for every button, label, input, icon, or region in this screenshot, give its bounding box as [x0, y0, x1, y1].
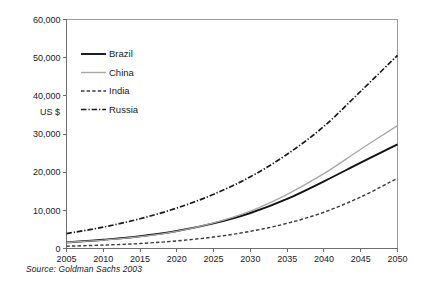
x-tick-label: 2045: [351, 254, 371, 264]
x-tick-label: 2050: [387, 254, 407, 264]
series-lines: [67, 55, 398, 246]
y-tick-label: 60,000: [33, 15, 61, 25]
x-tick-label: 2015: [130, 254, 150, 264]
x-tick-label: 2040: [314, 254, 334, 264]
y-tick-label: 20,000: [33, 167, 61, 177]
y-tick-label: 30,000: [33, 129, 61, 139]
legend-label-brazil: Brazil: [109, 48, 133, 59]
x-tick-label: 2020: [167, 254, 187, 264]
legend-label-india: India: [109, 85, 130, 96]
source-note: Source: Goldman Sachs 2003: [26, 264, 142, 274]
y-axis-ticks: 010,00020,00030,00040,00050,00060,000: [33, 15, 67, 254]
chart-legend: BrazilChinaIndiaRussia: [81, 48, 139, 115]
y-tick-label: 0: [55, 244, 60, 254]
series-line-india: [67, 178, 398, 246]
y-tick-label: 10,000: [33, 206, 61, 216]
y-tick-label: 40,000: [33, 91, 61, 101]
series-line-brazil: [67, 144, 398, 242]
line-chart: 010,00020,00030,00040,00050,00060,000 20…: [0, 0, 426, 289]
x-tick-label: 2035: [277, 254, 297, 264]
series-line-russia: [67, 55, 398, 233]
x-tick-label: 2010: [93, 254, 113, 264]
legend-label-china: China: [109, 67, 135, 78]
x-tick-label: 2030: [240, 254, 260, 264]
chart-container: 010,00020,00030,00040,00050,00060,000 20…: [0, 0, 426, 289]
x-axis-ticks: 2005201020152020202520302035204020452050: [56, 249, 407, 265]
y-axis-title: US $: [40, 107, 60, 117]
y-tick-label: 50,000: [33, 53, 61, 63]
x-tick-label: 2025: [204, 254, 224, 264]
legend-label-russia: Russia: [109, 104, 139, 115]
x-tick-label: 2005: [56, 254, 76, 264]
